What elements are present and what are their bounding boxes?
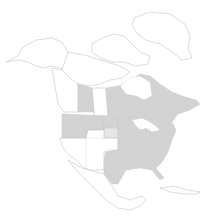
caribbean-islands [160,186,200,194]
region-south-dakota [104,128,118,138]
region-alberta [78,84,94,112]
region-saskatchewan [92,88,108,116]
alaska [6,38,70,70]
region-north-dakota [104,116,118,128]
distribution-map [0,0,215,218]
